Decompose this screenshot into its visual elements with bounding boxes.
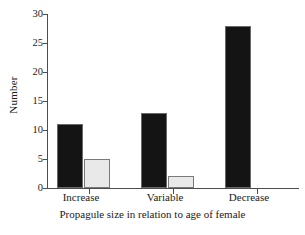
y-axis-tick-label: 25 bbox=[33, 38, 44, 49]
bar-group bbox=[131, 14, 215, 188]
y-axis-tick-labels: 051015202530 bbox=[22, 8, 46, 190]
bar bbox=[84, 159, 110, 188]
y-axis-tick-label: 20 bbox=[33, 67, 44, 78]
x-axis-tick-label: Variable bbox=[147, 192, 184, 203]
bar bbox=[168, 176, 194, 188]
x-axis-title-label: Propagule size in relation to age of fem… bbox=[59, 208, 245, 220]
bar-group bbox=[215, 14, 299, 188]
y-axis-tick-mark bbox=[43, 188, 47, 189]
bar bbox=[225, 26, 251, 188]
bar bbox=[141, 113, 167, 188]
plot-area bbox=[47, 14, 299, 188]
x-axis-tick-label: Decrease bbox=[229, 192, 269, 203]
bar bbox=[57, 124, 83, 188]
bar-chart: Number 051015202530 IncreaseVariableDecr… bbox=[0, 0, 305, 235]
y-axis-tick-label: 15 bbox=[33, 96, 44, 107]
y-axis-tick-label: 30 bbox=[33, 9, 44, 20]
y-axis-tick-label: 10 bbox=[33, 125, 44, 136]
x-axis-title: Propagule size in relation to age of fem… bbox=[0, 208, 305, 220]
y-axis-title-label: Number bbox=[7, 76, 19, 113]
x-axis-tick-labels: IncreaseVariableDecrease bbox=[47, 192, 299, 208]
x-axis-tick-label: Increase bbox=[63, 192, 100, 203]
bar-group bbox=[47, 14, 131, 188]
y-axis-title: Number bbox=[2, 0, 24, 190]
